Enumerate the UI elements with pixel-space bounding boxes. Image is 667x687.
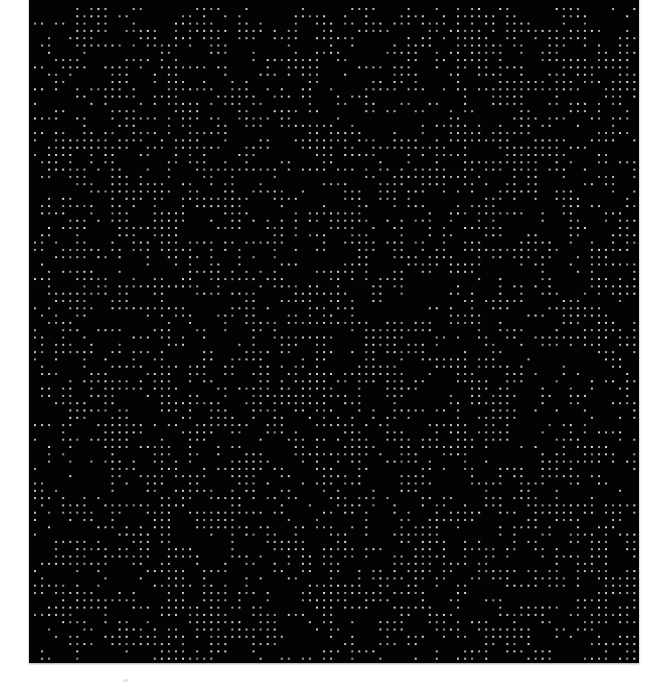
dot	[471, 132, 473, 134]
dot	[140, 103, 142, 105]
dot	[161, 388, 163, 390]
dot	[83, 607, 85, 609]
dot	[260, 453, 262, 455]
dot	[161, 52, 163, 54]
dot	[260, 439, 262, 441]
dot	[168, 570, 170, 572]
dot	[499, 512, 501, 514]
dot	[161, 285, 163, 287]
dot	[492, 497, 494, 499]
dot	[528, 191, 530, 193]
dot	[154, 227, 156, 229]
dot	[633, 585, 635, 587]
dot	[584, 227, 586, 229]
dot	[626, 585, 628, 587]
dot	[605, 88, 607, 90]
dot	[182, 658, 184, 660]
dot	[499, 212, 501, 214]
dot	[302, 15, 304, 17]
dot	[281, 351, 283, 353]
dot	[83, 512, 85, 514]
dot	[379, 147, 381, 149]
dot	[105, 139, 107, 141]
dot	[309, 395, 311, 397]
dot	[443, 15, 445, 17]
dot	[408, 490, 410, 492]
dot	[626, 577, 628, 579]
dot	[401, 431, 403, 433]
dot	[323, 169, 325, 171]
dot	[196, 366, 198, 368]
dot	[499, 497, 501, 499]
dot	[105, 88, 107, 90]
dot	[224, 410, 226, 412]
dot	[196, 110, 198, 112]
dot	[457, 636, 459, 638]
dot	[570, 37, 572, 39]
dot	[429, 607, 431, 609]
dot	[387, 373, 389, 375]
dot	[394, 110, 396, 112]
dot	[238, 636, 240, 638]
dot	[189, 621, 191, 623]
dot	[633, 176, 635, 178]
dot	[253, 125, 255, 127]
dot	[133, 118, 135, 120]
dot	[161, 212, 163, 214]
dot	[387, 351, 389, 353]
dot	[175, 468, 177, 470]
dot	[471, 23, 473, 25]
dot	[210, 205, 212, 207]
dot	[323, 556, 325, 558]
dot	[105, 23, 107, 25]
dot	[97, 329, 99, 331]
dot	[281, 658, 283, 660]
dot	[535, 497, 537, 499]
dot	[436, 431, 438, 433]
dot	[337, 37, 339, 39]
dot	[485, 431, 487, 433]
dot	[62, 59, 64, 61]
dot	[605, 607, 607, 609]
dot	[154, 191, 156, 193]
dot	[570, 556, 572, 558]
dot	[365, 110, 367, 112]
dot	[520, 30, 522, 32]
dot	[288, 388, 290, 390]
dot	[344, 169, 346, 171]
dot	[330, 278, 332, 280]
dot	[394, 205, 396, 207]
dot	[274, 636, 276, 638]
dot	[90, 395, 92, 397]
dot	[83, 629, 85, 631]
dot	[337, 548, 339, 550]
dot	[126, 629, 128, 631]
dot	[154, 74, 156, 76]
dot	[175, 227, 177, 229]
dot	[281, 475, 283, 477]
dot	[69, 351, 71, 353]
dot	[76, 271, 78, 273]
dot	[570, 205, 572, 207]
dot	[542, 337, 544, 339]
dot	[182, 15, 184, 17]
dot	[351, 300, 353, 302]
dot	[154, 329, 156, 331]
dot	[34, 483, 36, 485]
dot	[499, 570, 501, 572]
dot	[182, 278, 184, 280]
dot	[281, 366, 283, 368]
dot	[612, 125, 614, 127]
dot	[182, 88, 184, 90]
dot	[422, 534, 424, 536]
dot	[626, 461, 628, 463]
dot	[591, 285, 593, 287]
dot	[387, 191, 389, 193]
dot	[506, 424, 508, 426]
dot	[570, 264, 572, 266]
dot	[549, 59, 551, 61]
dot	[605, 315, 607, 317]
dot	[513, 300, 515, 302]
dot	[83, 366, 85, 368]
dot	[556, 380, 558, 382]
